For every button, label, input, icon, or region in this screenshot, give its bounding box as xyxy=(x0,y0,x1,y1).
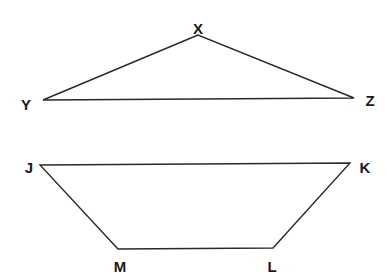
triangle-xyz xyxy=(43,35,354,100)
vertex-label-k: K xyxy=(360,159,371,176)
vertex-label-z: Z xyxy=(365,92,374,109)
vertex-label-m: M xyxy=(114,258,127,275)
diagram-canvas: X Y Z J K L M xyxy=(0,0,387,280)
vertex-label-j: J xyxy=(25,159,33,176)
vertex-label-x: X xyxy=(193,20,203,37)
trapezoid-jklm xyxy=(40,163,350,249)
vertex-label-l: L xyxy=(267,258,276,275)
geometry-figure: X Y Z J K L M xyxy=(0,0,387,280)
vertex-label-y: Y xyxy=(21,96,31,113)
